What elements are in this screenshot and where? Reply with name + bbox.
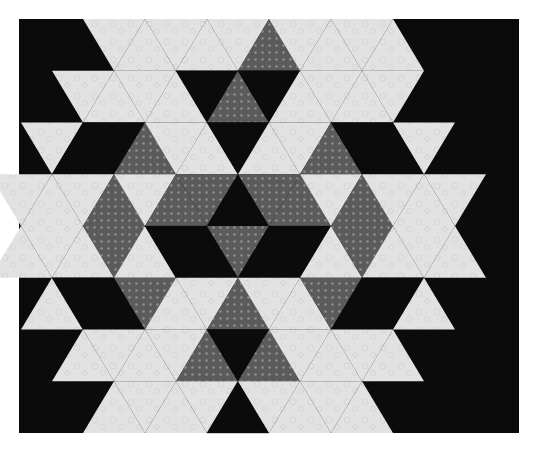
triangle-grid xyxy=(0,19,486,433)
quilt-svg xyxy=(0,0,537,450)
quilt-image: Hexagonal star quilt block xyxy=(0,0,537,450)
